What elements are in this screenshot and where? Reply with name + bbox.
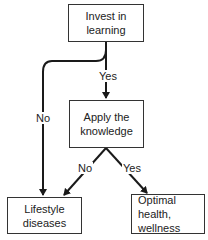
node-apply-the-knowledge: Apply the knowledge [69,100,144,148]
edge-label-no-left: No [35,112,51,124]
node-optimal-health: Optimal health, wellness [131,194,205,234]
node-optimal-line2: wellness [138,221,200,235]
node-invest-line2: learning [86,23,127,37]
node-invest-in-learning: Invest in learning [68,4,144,42]
edge-label-yes-top: Yes [98,70,118,82]
node-lifestyle-line1: Lifestyle [23,202,66,216]
node-apply-line2: knowledge [80,124,133,138]
node-lifestyle-line2: diseases [23,216,66,230]
node-optimal-line1: Optimal health, [138,193,200,221]
node-apply-line1: Apply the [80,110,133,124]
node-invest-line1: Invest in [86,9,127,23]
node-lifestyle-diseases: Lifestyle diseases [7,197,82,234]
edge-label-no-bottom: No [77,162,93,174]
edge-label-yes-bottom: Yes [122,162,142,174]
